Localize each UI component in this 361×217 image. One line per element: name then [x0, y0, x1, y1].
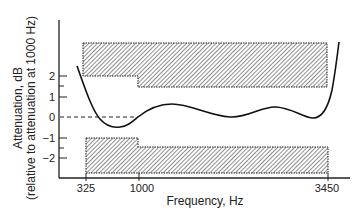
y-tick-minus-1: −1	[42, 132, 55, 144]
y-axis-label: Attenuation, dB	[11, 67, 25, 149]
upper-attenuation-mask	[83, 43, 327, 87]
x-tick-3450: 3450	[315, 182, 339, 194]
lower-attenuation-mask	[86, 138, 328, 173]
y-axis-sublabel: (relative to attenuation at 1000 Hz)	[24, 16, 38, 200]
y-tick-0: 0	[49, 111, 55, 123]
x-tick-labels: 325 1000 3450	[77, 182, 339, 194]
attenuation-chart: 2 1 0 −1 −2 325 1000 3450 Frequency, Hz …	[0, 0, 361, 217]
y-tick-1: 1	[49, 91, 55, 103]
y-tick-minus-2: −2	[42, 152, 55, 164]
y-tick-2: 2	[49, 70, 55, 82]
y-axis-label-group: Attenuation, dB (relative to attenuation…	[11, 16, 38, 200]
x-tick-325: 325	[77, 182, 95, 194]
x-tick-1000: 1000	[130, 182, 154, 194]
y-tick-labels: 2 1 0 −1 −2	[42, 70, 55, 164]
x-axis-label: Frequency, Hz	[166, 194, 243, 208]
